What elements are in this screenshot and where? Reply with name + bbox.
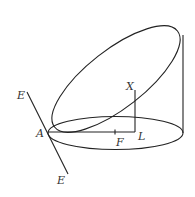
label-A: A [35,127,44,140]
diagram-canvas: E A E X L F [0,0,195,197]
label-E-bottom: E [56,174,65,187]
oblique-section-ellipse [37,8,195,150]
label-F: F [115,136,124,149]
label-L: L [137,130,145,143]
label-E-top: E [16,89,25,102]
tangent-line-EE [27,92,68,174]
label-X: X [125,80,135,93]
